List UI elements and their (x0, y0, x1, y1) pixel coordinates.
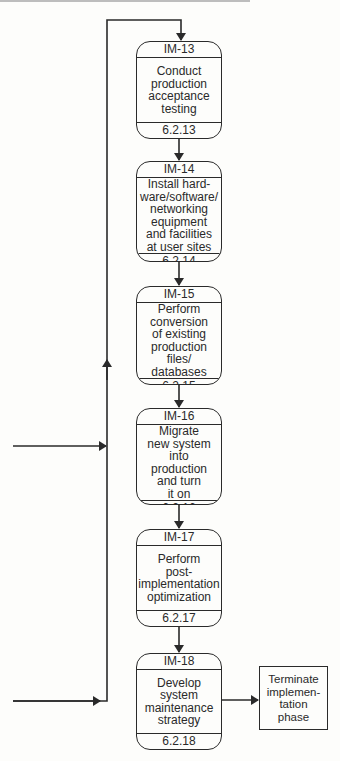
process-ref: 6.2.14 (137, 253, 221, 262)
process-id: IM-17 (137, 530, 221, 546)
process-label: Migrate new system into production and t… (137, 425, 221, 500)
process-im-14: IM-14 Install hard- ware/software/ netwo… (136, 161, 222, 262)
process-label: Perform conversion of existing productio… (137, 303, 221, 378)
process-im-15: IM-15 Perform conversion of existing pro… (136, 286, 222, 385)
process-label: Install hard- ware/software/ networking … (137, 178, 221, 253)
process-id: IM-18 (137, 654, 221, 670)
process-ref: 6.2.13 (137, 122, 221, 138)
process-ref: 6.2.18 (137, 733, 221, 749)
process-ref: 6.2.15 (137, 378, 221, 385)
process-im-16: IM-16 Migrate new system into production… (136, 408, 222, 505)
process-id: IM-13 (137, 42, 221, 58)
process-im-17: IM-17 Perform post- implementation optim… (136, 529, 222, 627)
process-id: IM-15 (137, 287, 221, 303)
process-im-18: IM-18 Develop system maintenance strateg… (136, 653, 222, 750)
process-label: Conduct production acceptance testing (137, 58, 221, 122)
process-label: Develop system maintenance strategy (137, 670, 221, 733)
process-ref: 6.2.17 (137, 610, 221, 626)
process-id: IM-14 (137, 162, 221, 178)
process-id: IM-16 (137, 409, 221, 425)
terminate-phase-box: Terminate implemen- tation phase (259, 666, 328, 730)
process-im-13: IM-13 Conduct production acceptance test… (136, 41, 222, 139)
process-label: Perform post- implementation optimizatio… (137, 546, 221, 610)
process-ref: 6.2.16 (137, 500, 221, 505)
